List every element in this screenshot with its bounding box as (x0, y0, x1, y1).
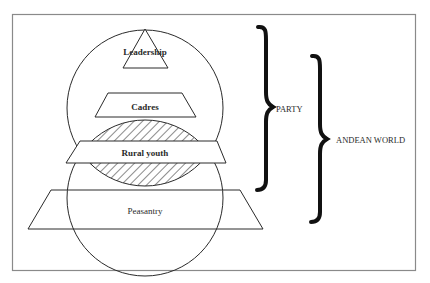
party-label: PARTY (276, 104, 303, 114)
diagram-canvas: Leadership Cadres Rural youth Peasantry … (0, 0, 430, 283)
peasantry-label: Peasantry (128, 206, 163, 216)
leadership-label: Leadership (123, 47, 167, 57)
party-brace (257, 27, 273, 190)
andean-world-label: ANDEAN WORLD (336, 135, 405, 145)
rural-youth-label: Rural youth (122, 148, 169, 158)
cadres-label: Cadres (131, 102, 159, 112)
andean-world-brace (311, 56, 327, 222)
